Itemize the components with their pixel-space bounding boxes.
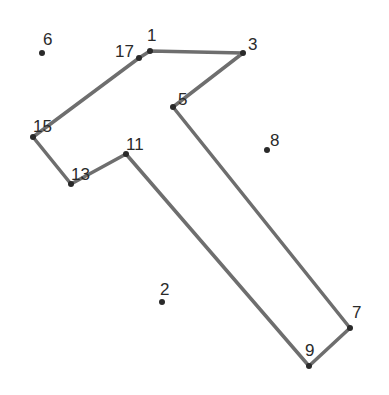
- dot-label-11: 11: [126, 135, 144, 154]
- dot-label-6: 6: [43, 30, 52, 49]
- dot-label-1: 1: [147, 26, 156, 45]
- dot-label-9: 9: [305, 341, 314, 360]
- dot-label-3: 3: [248, 35, 257, 54]
- dot-label-7: 7: [352, 303, 361, 322]
- dot-label-17: 17: [115, 42, 134, 61]
- dot-3[interactable]: [240, 50, 246, 56]
- dot-label-8: 8: [270, 131, 279, 150]
- dot-17[interactable]: [136, 55, 142, 61]
- dot-1[interactable]: [147, 48, 153, 54]
- connected-path: [33, 51, 350, 366]
- dot-5[interactable]: [170, 104, 176, 110]
- dot-puzzle-canvas: 1235678911131517: [0, 0, 389, 395]
- dot-2[interactable]: [159, 299, 165, 305]
- dot-label-15: 15: [33, 117, 52, 136]
- dot-6[interactable]: [39, 50, 45, 56]
- dot-label-13: 13: [71, 165, 90, 184]
- dot-9[interactable]: [306, 363, 312, 369]
- dot-label-5: 5: [178, 90, 187, 109]
- dot-7[interactable]: [347, 325, 353, 331]
- dot-label-2: 2: [160, 280, 169, 299]
